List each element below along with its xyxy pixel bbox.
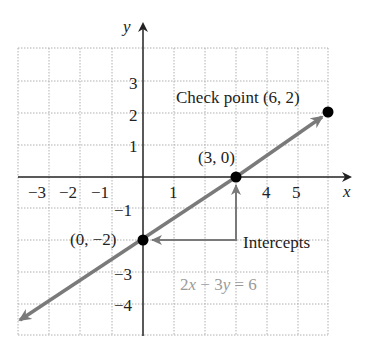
x-axis-label: x <box>342 182 351 201</box>
x-tick: −3 <box>28 183 46 202</box>
label-y-intercept: (0, −2) <box>70 230 116 249</box>
y-tick: −3 <box>114 265 132 284</box>
x-tick: 1 <box>169 183 178 202</box>
label-intercepts: Intercepts <box>243 233 310 252</box>
label-check-point: Check point (6, 2) <box>176 88 300 107</box>
y-tick: 2 <box>129 106 138 125</box>
line-graph: y x −3 −2 −1 1 4 5 3 2 1 −1 −3 −4 (3, 0)… <box>0 0 368 350</box>
y-tick: −1 <box>114 201 132 220</box>
point-y-intercept <box>138 235 149 246</box>
y-tick: 3 <box>129 74 138 93</box>
y-tick: −4 <box>114 296 133 315</box>
x-tick: 4 <box>262 183 271 202</box>
x-tick: −2 <box>59 183 77 202</box>
label-x-intercept: (3, 0) <box>198 148 235 167</box>
y-tick: 1 <box>129 137 138 156</box>
point-check <box>323 107 334 118</box>
graph-line-arrow-right <box>236 117 322 177</box>
equation-label: 2x − 3y = 6 <box>180 275 257 294</box>
x-tick: −1 <box>91 183 109 202</box>
x-tick: 5 <box>292 183 301 202</box>
y-axis-label: y <box>121 17 131 36</box>
point-x-intercept <box>231 172 242 183</box>
